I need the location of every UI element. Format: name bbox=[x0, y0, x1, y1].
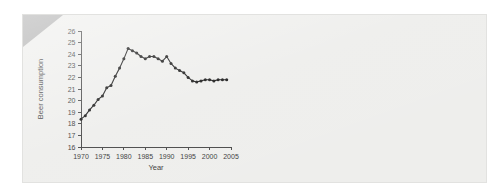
x-tick-label: 1985 bbox=[137, 153, 153, 160]
data-point-marker bbox=[105, 86, 108, 89]
data-point-marker bbox=[84, 114, 87, 117]
data-point-marker bbox=[110, 84, 113, 87]
line-chart: 1617181920212223242526197019751980198519… bbox=[23, 15, 487, 183]
data-point-marker bbox=[80, 118, 83, 121]
data-point-marker bbox=[170, 62, 173, 65]
data-point-marker bbox=[97, 98, 100, 101]
x-tick-label: 1995 bbox=[180, 153, 196, 160]
page-root: 1617181920212223242526197019751980198519… bbox=[0, 0, 501, 195]
data-point-marker bbox=[174, 67, 177, 70]
data-point-marker bbox=[140, 55, 143, 58]
data-point-marker bbox=[152, 55, 155, 58]
data-point-marker bbox=[195, 81, 198, 84]
data-point-marker bbox=[144, 57, 147, 60]
data-point-marker bbox=[114, 75, 117, 78]
data-point-marker bbox=[200, 79, 203, 82]
x-tick-label: 1975 bbox=[95, 153, 111, 160]
y-tick-label: 22 bbox=[68, 74, 76, 81]
chart-canvas: 1617181920212223242526197019751980198519… bbox=[23, 15, 487, 183]
data-point-marker bbox=[157, 57, 160, 60]
data-point-marker bbox=[182, 71, 185, 74]
data-point-marker bbox=[187, 76, 190, 79]
data-point-marker bbox=[225, 78, 228, 81]
data-point-marker bbox=[118, 67, 121, 70]
y-tick-label: 17 bbox=[68, 132, 76, 139]
data-point-marker bbox=[191, 79, 194, 82]
data-point-marker bbox=[204, 78, 207, 81]
data-point-marker bbox=[221, 78, 224, 81]
y-tick-label: 16 bbox=[68, 144, 76, 151]
y-tick-label: 24 bbox=[68, 51, 76, 58]
data-point-marker bbox=[131, 49, 134, 52]
axis-spine bbox=[81, 31, 231, 147]
data-point-marker bbox=[135, 52, 138, 55]
y-tick-label: 23 bbox=[68, 62, 76, 69]
x-tick-label: 2000 bbox=[202, 153, 218, 160]
data-point-marker bbox=[161, 60, 164, 63]
data-point-marker bbox=[217, 78, 220, 81]
x-tick-label: 1980 bbox=[116, 153, 132, 160]
data-point-marker bbox=[208, 78, 211, 81]
x-tick-label: 1990 bbox=[159, 153, 175, 160]
y-axis-title: Beer consumption bbox=[36, 59, 45, 119]
data-point-marker bbox=[122, 57, 125, 60]
x-axis-title: Year bbox=[148, 163, 164, 172]
scanned-figure-panel: 1617181920212223242526197019751980198519… bbox=[22, 14, 487, 183]
data-point-marker bbox=[92, 104, 95, 107]
y-tick-label: 18 bbox=[68, 120, 76, 127]
data-point-marker bbox=[88, 108, 91, 111]
y-tick-label: 26 bbox=[68, 28, 76, 35]
x-tick-label: 2005 bbox=[223, 153, 239, 160]
data-point-marker bbox=[101, 94, 104, 97]
data-point-marker bbox=[165, 55, 168, 58]
series-line-beer-consumption bbox=[81, 48, 227, 119]
y-tick-label: 25 bbox=[68, 39, 76, 46]
y-tick-label: 20 bbox=[68, 97, 76, 104]
data-point-marker bbox=[127, 47, 130, 50]
data-point-marker bbox=[178, 69, 181, 72]
y-tick-label: 21 bbox=[68, 86, 76, 93]
data-point-marker bbox=[212, 79, 215, 82]
y-tick-label: 19 bbox=[68, 109, 76, 116]
data-point-marker bbox=[148, 55, 151, 58]
x-tick-label: 1970 bbox=[73, 153, 89, 160]
